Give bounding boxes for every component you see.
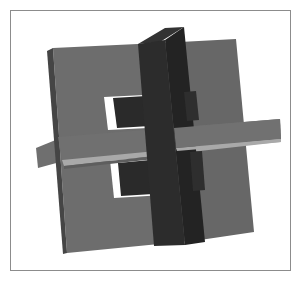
puzzle-render: [0, 0, 304, 281]
